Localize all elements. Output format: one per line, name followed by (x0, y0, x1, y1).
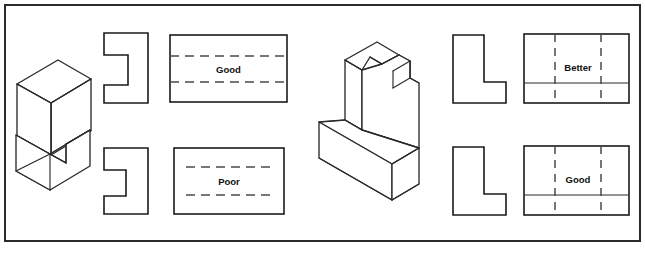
side-view-l-shape-top (453, 35, 506, 103)
front-view-poor-left: Poor (174, 148, 284, 214)
front-view-better-right: Better (524, 34, 629, 103)
side-view-c-shape-top (104, 33, 148, 103)
front-view-label-good-right: Good (566, 174, 591, 185)
iso-wall-left-face (345, 60, 362, 130)
front-view-label-poor: Poor (218, 176, 240, 187)
side-view-c-shape-bottom (104, 148, 148, 214)
front-view-good-right: Good (524, 146, 629, 215)
side-view-l-shape-bottom (453, 147, 506, 215)
drawing-canvas: Good Poor (0, 0, 645, 254)
front-view-good-left: Good (170, 35, 287, 102)
pictorial-c-channel-block (16, 60, 91, 190)
front-view-label-good-left: Good (216, 64, 241, 75)
technical-drawing-figure: Good Poor (0, 0, 645, 254)
pictorial-l-block-with-notch (319, 42, 419, 200)
front-view-label-better: Better (564, 62, 592, 73)
